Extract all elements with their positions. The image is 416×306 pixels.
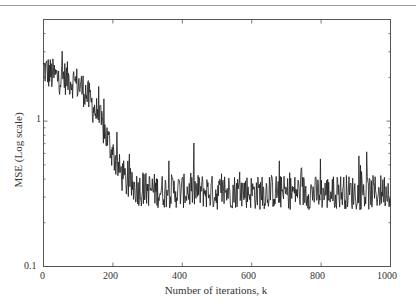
x-tick-label-200: 200 xyxy=(103,270,118,281)
x-tick-label-1000: 1000 xyxy=(377,270,397,281)
axis-ticks xyxy=(44,20,391,267)
y-axis-title: MSE (Log scale) xyxy=(12,112,24,187)
x-tick-label-0: 0 xyxy=(40,270,45,281)
plot-frame xyxy=(44,20,391,267)
x-axis-title: Number of iterations, k xyxy=(165,284,268,296)
x-tick-label-800: 800 xyxy=(310,270,325,281)
y-tick-label-1: 1 xyxy=(36,113,41,124)
mse-series-line xyxy=(44,51,391,210)
x-tick-label-400: 400 xyxy=(172,270,187,281)
y-tick-label-0-1: 0.1 xyxy=(24,260,37,271)
mse-line-chart xyxy=(0,0,416,306)
x-tick-label-600: 600 xyxy=(241,270,256,281)
